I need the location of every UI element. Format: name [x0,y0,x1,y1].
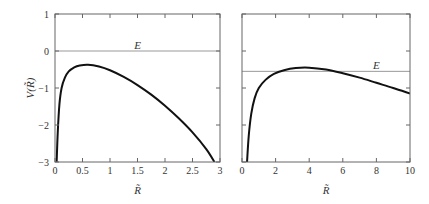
figure: 00.511.522.5310−1−2−3ER̃V(R̃) 0246810ER̃ [0,0,429,204]
x-tick-label: 8 [374,165,379,176]
x-tick-label: 0 [53,165,58,176]
x-tick-label: 2.5 [186,165,199,176]
x-tick-label: 2 [163,165,168,176]
energy-label: E [372,59,380,71]
y-tick-label: −2 [38,120,49,131]
potential-curve [57,65,215,162]
x-tick-label: 4 [307,165,312,176]
x-tick-label: 0.5 [76,165,89,176]
x-tick-label: 2 [273,165,278,176]
y-tick-label: 1 [44,9,49,20]
panel-left: 00.511.522.5310−1−2−3ER̃V(R̃) [24,9,223,197]
y-tick-label: 0 [44,46,49,57]
y-axis-label: V(R̃) [24,77,37,98]
axes-frame [55,14,220,162]
x-tick-label: 0 [240,165,245,176]
y-tick-label: −1 [38,83,49,94]
x-axis-label: R̃ [322,184,330,196]
panel-right: 0246810ER̃ [240,14,416,196]
x-tick-label: 3 [218,165,223,176]
x-tick-label: 1.5 [131,165,144,176]
x-axis-label: R̃ [133,184,141,196]
x-tick-label: 1 [108,165,113,176]
potential-curve [247,68,410,162]
energy-label: E [133,39,141,51]
axes-frame [242,14,410,162]
x-tick-label: 10 [405,165,415,176]
y-tick-label: −3 [38,157,49,168]
x-tick-label: 6 [340,165,345,176]
